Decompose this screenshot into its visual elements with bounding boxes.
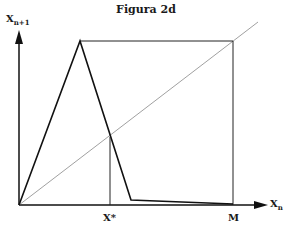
y-axis-arrow-icon (15, 30, 23, 44)
tent-map-diagram (0, 0, 292, 230)
y-axis-label: Xn+1 (6, 13, 30, 27)
x-axis-label: Xn (270, 198, 283, 212)
x-axis-arrow-icon (254, 201, 268, 209)
x-star-label: X* (103, 212, 116, 223)
m-label: M (228, 212, 239, 223)
diagonal-line (19, 22, 258, 205)
